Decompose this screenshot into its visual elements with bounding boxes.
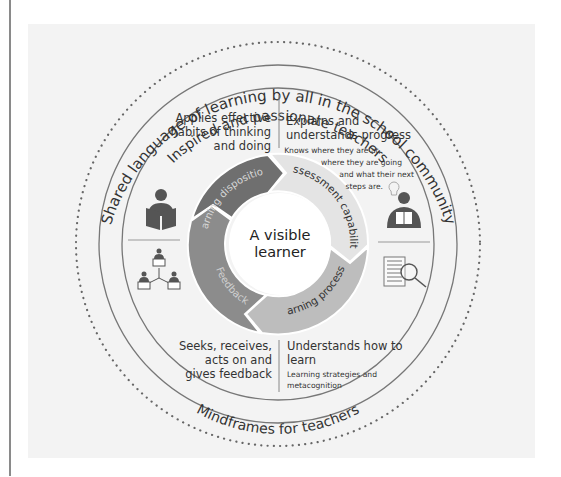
reading-student-icon bbox=[146, 189, 176, 230]
bottom-right-detail-line: Learning strategies and bbox=[287, 370, 377, 379]
bottom-left-line: Seeks, receives, bbox=[179, 339, 272, 353]
top-left-line: and doing bbox=[214, 139, 271, 153]
top-right-line: Explains and bbox=[286, 114, 359, 128]
lower-ring-label: Mindframes for teachers bbox=[194, 401, 361, 437]
bottom-right-detail: Learning strategies and metacognition bbox=[287, 370, 377, 390]
top-right-detail-line: and what their next bbox=[339, 170, 414, 179]
document-magnifier-icon bbox=[384, 257, 426, 287]
bottom-right-detail-line: metacognition bbox=[287, 381, 342, 390]
quadrant-top-right: Explains and understands progress bbox=[286, 114, 411, 142]
bottom-left-line: gives feedback bbox=[185, 367, 272, 381]
top-left-line: habits of thinking bbox=[171, 125, 271, 139]
top-left-line: Applies effective bbox=[175, 111, 271, 125]
top-right-detail-line: Knows where they are at, bbox=[284, 146, 381, 155]
visible-learner-diagram: Shared language of learning by all in th… bbox=[0, 0, 561, 477]
center-title-line-2: learner bbox=[254, 244, 306, 260]
quadrant-top-left: Applies effective habits of thinking and… bbox=[171, 111, 271, 153]
center-title-line-1: A visible bbox=[250, 227, 311, 243]
bottom-right-line: Understands how to bbox=[287, 339, 403, 353]
group-network-icon bbox=[138, 249, 180, 290]
top-right-detail-line: steps are. bbox=[346, 182, 384, 191]
bottom-right-line: learn bbox=[287, 353, 316, 367]
student-lightbulb-icon bbox=[387, 182, 421, 228]
top-right-detail-line: where they are going bbox=[321, 158, 402, 167]
quadrant-bottom-left: Seeks, receives, acts on and gives feedb… bbox=[179, 339, 272, 381]
bottom-left-line: acts on and bbox=[205, 353, 272, 367]
quadrant-bottom-right: Understands how to learn bbox=[287, 339, 403, 367]
top-right-line: understands progress bbox=[286, 128, 411, 142]
